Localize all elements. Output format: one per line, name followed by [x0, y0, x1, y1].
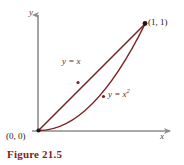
figure-caption: Figure 21.5 — [7, 148, 62, 160]
point-label-unit: (1, 1) — [148, 18, 168, 27]
y-axis-label: y — [29, 8, 33, 17]
curve-label-parabola-text: y = x — [108, 89, 127, 99]
curve-parabola-marker — [102, 95, 105, 98]
curve-label-line: y = x — [62, 57, 81, 66]
point-dot-origin — [36, 128, 40, 132]
curve-line-y-equals-x — [39, 24, 146, 131]
point-dot-unit — [143, 21, 148, 26]
curve-label-parabola-exponent: 2 — [127, 87, 130, 94]
point-label-origin: (0, 0) — [6, 132, 26, 141]
curve-line-marker — [76, 81, 79, 84]
figure-container: y x y = x y = x2 (1, 1) (0, 0) Figure 21… — [0, 0, 184, 165]
x-axis-label: x — [160, 132, 164, 141]
curve-label-parabola: y = x2 — [108, 88, 130, 99]
